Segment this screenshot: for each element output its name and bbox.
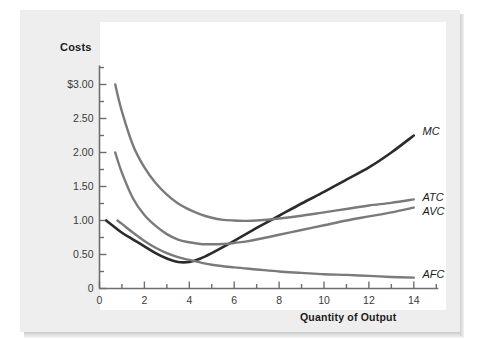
x-tick-label: 8 — [267, 294, 291, 306]
curve-label-atc: ATC — [423, 191, 444, 203]
curve-atc — [115, 85, 414, 221]
curve-label-mc: MC — [423, 125, 440, 137]
curve-afc — [117, 221, 413, 278]
curves-group — [106, 85, 414, 278]
cost-curves-figure: Costs Quantity of Output 00.501.001.502.… — [0, 0, 480, 357]
y-tick-label: 0.50 — [48, 248, 94, 260]
y-tick-label: 1.00 — [48, 214, 94, 226]
y-tick-label: $3.00 — [48, 78, 94, 90]
curve-label-avc: AVC — [423, 205, 445, 217]
x-tick-label: 2 — [132, 294, 156, 306]
x-tick-label: 4 — [177, 294, 201, 306]
x-tick-label: 12 — [357, 294, 381, 306]
x-tick-label: 6 — [222, 294, 246, 306]
curve-label-afc: AFC — [423, 268, 445, 280]
y-tick-label: 2.50 — [48, 112, 94, 124]
x-axis-title: Quantity of Output — [300, 311, 396, 323]
x-tick-label: 10 — [312, 294, 336, 306]
y-tick-label: 2.00 — [48, 146, 94, 158]
x-tick-label: 0 — [88, 294, 112, 306]
curve-mc — [106, 136, 414, 263]
y-tick-label: 0 — [48, 282, 94, 294]
x-tick-label: 14 — [402, 294, 426, 306]
y-tick-label: 1.50 — [48, 180, 94, 192]
y-axis-title: Costs — [60, 41, 92, 53]
